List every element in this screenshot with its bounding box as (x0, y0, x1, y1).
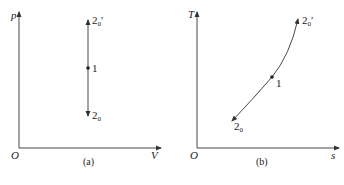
state-20-label: 20 (234, 121, 243, 134)
panel-a-process (86, 20, 90, 116)
state-20-label: 20 (92, 110, 101, 123)
process-curve-up (272, 19, 298, 77)
state-20-prime-label: 20′ (302, 15, 313, 28)
t-axis-label: T (188, 9, 194, 20)
state-1-label: 1 (92, 63, 98, 74)
origin-label: O (11, 150, 19, 161)
p-axis-label: p (11, 10, 17, 21)
process-curve-down (232, 77, 272, 121)
state-1-point (86, 66, 90, 70)
state-20-prime-label: 20′ (92, 15, 103, 28)
panel-a-axes (19, 12, 161, 148)
panel-b-axes (197, 12, 339, 148)
panel-b-process (232, 19, 298, 121)
v-axis-label: V (151, 150, 158, 161)
panel-a-caption: (a) (83, 157, 94, 167)
origin-label: O (190, 150, 198, 161)
panel-b-caption: (b) (256, 157, 268, 167)
state-1-point (270, 75, 274, 79)
diagram-canvas (0, 0, 344, 185)
state-1-label: 1 (276, 78, 282, 89)
s-axis-label: s (331, 150, 335, 161)
